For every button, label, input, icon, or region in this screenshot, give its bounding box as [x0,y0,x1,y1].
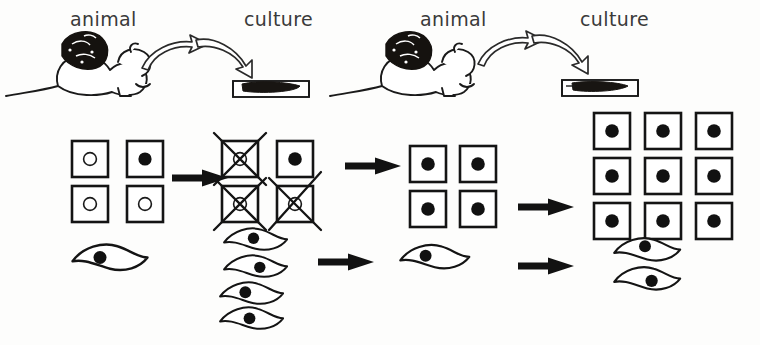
filled-nucleus [94,251,107,264]
filled-nucleus [421,202,435,216]
square-cell [696,113,732,149]
square-cell [645,158,681,194]
filled-nucleus [707,214,721,228]
filled-nucleus [288,152,302,166]
culture-dish-1 [233,81,309,97]
square-cell [460,191,496,227]
spindle-cell [220,282,283,303]
filled-nucleus [656,214,670,228]
filled-nucleus [239,286,251,298]
filled-nucleus [707,124,721,138]
square-cell [277,141,313,177]
filled-nucleus [471,157,485,171]
group-3-expanded-transformed [400,146,496,268]
group-2-selection [214,133,321,329]
square-cell [72,186,108,222]
filled-nucleus [471,202,485,216]
square-cell [410,146,446,182]
spindle-cell [224,255,287,276]
square-cell-crossed [214,133,266,185]
spindle-cell [224,228,287,249]
culture-dish-2 [562,80,638,96]
arrow-squares-2-to-3 [345,158,401,175]
filled-nucleus [244,312,256,324]
square-cell [645,203,681,239]
arrow-squares-3-to-4 [518,199,574,216]
hollow-nucleus [139,198,152,211]
square-cell [460,146,496,182]
spindle-cell [400,245,469,268]
square-cell [410,191,446,227]
filled-nucleus [248,233,259,244]
square-cell [127,186,163,222]
spindle-cell [73,245,148,270]
figure-canvas: animal culture animal culture [0,0,760,345]
spindle-cell [614,267,680,289]
square-cell [594,158,630,194]
filled-nucleus [605,169,619,183]
filled-nucleus [421,157,435,171]
square-cell [696,158,732,194]
filled-nucleus [605,214,619,228]
filled-nucleus [138,152,151,165]
filled-nucleus [639,240,651,252]
diagram-svg [0,0,760,345]
arrow-spindles-3-to-4 [518,258,574,275]
filled-nucleus [656,169,670,183]
filled-nucleus [645,275,657,287]
spindle-cell [614,238,680,260]
mouse-with-tumor-1 [6,32,151,96]
curved-arrow-animal2-to-culture2-b [532,35,588,74]
hollow-nucleus [84,198,97,211]
filled-nucleus [420,250,432,262]
group-4-final-outgrowth [594,113,732,290]
filled-nucleus [656,124,670,138]
curved-arrow-animal1-to-culture1-b [196,39,252,78]
hollow-nucleus [84,153,97,166]
filled-nucleus [605,124,619,138]
square-cell [594,113,630,149]
square-cell [127,141,163,177]
filled-nucleus [254,262,265,273]
mouse-with-tumor-2 [330,32,475,96]
square-cell [645,113,681,149]
spindle-cell [220,307,283,328]
square-cell-crossed [214,178,266,230]
square-cell [72,141,108,177]
group-1-initial-population [72,141,163,270]
square-cell [696,203,732,239]
filled-nucleus [707,169,721,183]
square-cell [594,203,630,239]
square-cell-crossed [269,172,321,230]
arrow-spindles-2-to-3 [318,254,374,271]
